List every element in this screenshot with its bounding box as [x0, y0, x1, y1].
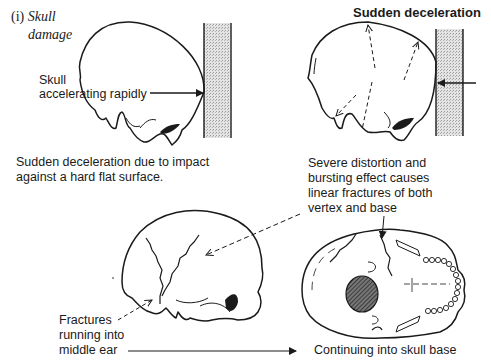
skull-base-icon: [302, 229, 465, 338]
title-line-2: damage: [28, 27, 72, 42]
fractures-label-line-1: Fractures: [59, 313, 112, 328]
deceleration-caption-line-4: vertex and base: [308, 201, 397, 216]
title-line-2-wrap: damage: [28, 26, 72, 43]
accelerating-skull-icon: [79, 22, 231, 145]
acceleration-caption-line-1: Sudden deceleration due to impact: [16, 155, 209, 170]
skull-base-label: Continuing into skull base: [314, 343, 456, 358]
deceleration-caption-line-3: linear fractures of both: [308, 186, 432, 201]
lateral-skull-fracture-icon: [112, 211, 263, 321]
section-label: (i): [11, 9, 24, 24]
decelerating-skull-icon: [308, 22, 463, 141]
skull-damage-diagram: (i) Skull damage Skull accelerating rapi…: [0, 0, 491, 364]
acceleration-caption-line-2: against a hard flat surface.: [16, 170, 163, 185]
middle-ear-pointer-arrow: [118, 300, 152, 320]
deceleration-heading: Sudden deceleration: [353, 5, 481, 20]
deceleration-caption-line-2: bursting effect causes: [308, 171, 429, 186]
deceleration-caption-line-1: Severe distortion and: [308, 156, 426, 171]
figure-title: (i) Skull: [11, 8, 56, 25]
base-fracture-pointer-arrow: [382, 216, 384, 238]
fractures-label-line-2: running into: [59, 328, 124, 343]
vertex-fracture-pointer-arrow: [206, 214, 300, 255]
fractures-label-line-3: middle ear: [59, 343, 117, 358]
title-line-1: Skull: [28, 9, 56, 24]
accelerating-label: accelerating rapidly: [39, 87, 147, 102]
skull-label: Skull: [39, 73, 66, 88]
